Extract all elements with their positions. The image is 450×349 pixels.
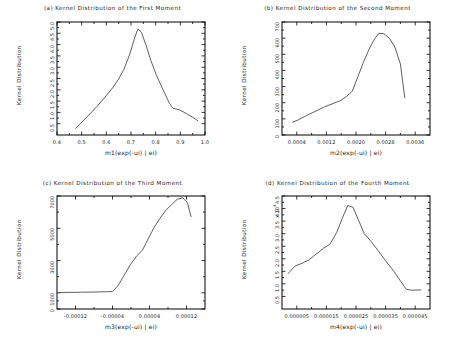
kernel-density-curve bbox=[288, 206, 421, 291]
y-axis-label: Kernel Distribution bbox=[16, 45, 22, 105]
y-axis-multiplier-exponent: 4 bbox=[273, 205, 277, 207]
panel-d: (d) Kernel Distribution of the Fourth Mo… bbox=[225, 175, 450, 349]
x-axis-tick-label: -0.00004 bbox=[101, 313, 124, 319]
y-axis-multiplier: x 104 bbox=[273, 205, 280, 218]
x-axis-tick-label: 0.7 bbox=[127, 139, 135, 145]
x-axis-tick-label: 0.000035 bbox=[373, 313, 398, 319]
plot-frame bbox=[282, 22, 430, 135]
x-axis-label: m3(exp(-ui) | ei) bbox=[57, 323, 205, 330]
figure-grid: (a) Kernel Distribution of the First Mom… bbox=[0, 0, 450, 349]
x-axis-tick-label: 0.000045 bbox=[403, 313, 428, 319]
x-axis-tick-label: 0.0004 bbox=[288, 139, 306, 145]
kernel-density-curve bbox=[292, 33, 404, 122]
x-axis-tick-label: 0.00004 bbox=[139, 313, 160, 319]
y-axis-label: Kernel Distribution bbox=[241, 45, 247, 105]
x-axis-tick-label: 0.000015 bbox=[314, 313, 339, 319]
x-axis-tick-label: 0.9 bbox=[176, 139, 184, 145]
y-axis-tick-label: 7000 bbox=[49, 196, 55, 248]
x-axis-tick-label: 0.0020 bbox=[347, 139, 365, 145]
x-axis-tick-label: 0.000005 bbox=[284, 313, 309, 319]
plot-frame bbox=[282, 196, 430, 309]
kernel-density-curve bbox=[59, 198, 191, 293]
x-axis-tick-label: 0.000025 bbox=[344, 313, 369, 319]
x-axis-label: m1(exp(-ui) | ei) bbox=[57, 149, 205, 156]
panel-c: (c) Kernel Distribution of the Third Mom… bbox=[0, 175, 225, 349]
x-axis-tick-label: 0.0012 bbox=[317, 139, 335, 145]
y-axis-label: Kernel Distribution bbox=[16, 219, 22, 279]
panel-b: (b) Kernel Distribution of the Second Mo… bbox=[225, 0, 450, 175]
x-axis-tick-label: 0.8 bbox=[152, 139, 160, 145]
y-axis-multiplier-base: x 10 bbox=[274, 207, 280, 218]
x-axis-tick-label: 0.6 bbox=[102, 139, 110, 145]
plot-frame bbox=[57, 22, 205, 135]
panel-a: (a) Kernel Distribution of the First Mom… bbox=[0, 0, 225, 175]
x-axis-label: m4(exp(-ui) | ei) bbox=[282, 323, 430, 330]
x-axis-tick-label: 0.5 bbox=[78, 139, 86, 145]
x-axis-tick-label: 0.0028 bbox=[377, 139, 395, 145]
x-axis-label: m2(exp(-ui) | ei) bbox=[282, 149, 430, 156]
x-axis-tick-label: -0.00012 bbox=[64, 313, 87, 319]
x-axis-tick-label: 0.00012 bbox=[176, 313, 197, 319]
y-axis-label: Kernel Distribution bbox=[241, 219, 247, 279]
y-axis-tick-label: 5.0 bbox=[49, 22, 55, 74]
y-axis-tick-label: 700 bbox=[274, 22, 280, 74]
x-axis-tick-label: 1.0 bbox=[201, 139, 209, 145]
kernel-density-curve bbox=[76, 29, 199, 129]
x-axis-tick-label: 0.0036 bbox=[406, 139, 424, 145]
